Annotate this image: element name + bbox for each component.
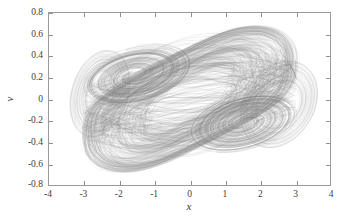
x-tick-label: 3 — [293, 189, 298, 199]
xtick-top--1 — [155, 13, 156, 17]
xtick-3 — [297, 181, 298, 185]
ytick-0.8 — [49, 13, 53, 14]
ytick--0.8 — [49, 185, 53, 186]
x-tick-label: 4 — [329, 189, 334, 199]
x-tick-label: 2 — [258, 189, 263, 199]
ytick--0.6 — [49, 165, 53, 166]
y-tick-label: -0.2 — [28, 115, 43, 125]
y-tick-label: 0.8 — [31, 7, 43, 17]
xtick-2 — [261, 181, 262, 185]
ytick-right-0.6 — [326, 35, 330, 36]
plot-area — [48, 12, 331, 186]
trajectory-traces — [70, 25, 318, 172]
ytick-right-0.4 — [326, 56, 330, 57]
xtick-0 — [191, 181, 192, 185]
xtick-top--2 — [120, 13, 121, 17]
ytick-right-0.2 — [326, 78, 330, 79]
xtick-top-3 — [297, 13, 298, 17]
ytick-0.4 — [49, 56, 53, 57]
ytick-right-0 — [326, 100, 330, 101]
xtick-top-2 — [261, 13, 262, 17]
attractor-plot — [49, 13, 330, 185]
ytick-0.2 — [49, 78, 53, 79]
y-tick-label: -0.6 — [28, 159, 43, 169]
y-axis-title: v — [3, 97, 15, 102]
ytick-right--0.6 — [326, 165, 330, 166]
ytick--0.2 — [49, 121, 53, 122]
y-tick-label: -0.8 — [28, 179, 43, 189]
x-tick-label: -2 — [115, 189, 123, 199]
x-tick-label: -1 — [150, 189, 158, 199]
y-tick-labels: 0.8 0.6 0.4 0.2 0 -0.2 -0.4 -0.6 -0.8 — [0, 0, 46, 221]
y-tick-label: 0.4 — [31, 50, 43, 60]
y-tick-label: 0.6 — [31, 29, 43, 39]
ytick--0.4 — [49, 143, 53, 144]
xtick--1 — [155, 181, 156, 185]
xtick--2 — [120, 181, 121, 185]
ytick-0 — [49, 100, 53, 101]
y-tick-label: -0.4 — [28, 137, 43, 147]
x-axis-title: x — [187, 200, 192, 212]
ytick-right--0.2 — [326, 121, 330, 122]
x-tick-label: -3 — [79, 189, 87, 199]
ytick-right--0.4 — [326, 143, 330, 144]
y-tick-label: 0 — [38, 94, 43, 104]
x-tick-label: 1 — [223, 189, 228, 199]
xtick-1 — [226, 181, 227, 185]
xtick-top-1 — [226, 13, 227, 17]
xtick-top-0 — [191, 13, 192, 17]
ytick-0.6 — [49, 35, 53, 36]
xtick--3 — [84, 181, 85, 185]
xtick-top--3 — [84, 13, 85, 17]
phase-portrait-figure: 0.8 0.6 0.4 0.2 0 -0.2 -0.4 -0.6 -0.8 -4… — [0, 0, 348, 221]
y-tick-label: 0.2 — [31, 72, 43, 82]
x-tick-label: 0 — [187, 189, 192, 199]
